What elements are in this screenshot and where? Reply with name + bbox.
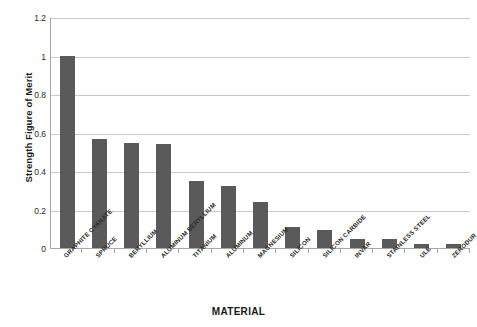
bar[interactable] bbox=[60, 56, 75, 249]
y-axis-tick-label: 1.2 bbox=[20, 14, 46, 23]
y-axis-tick-label: 0.8 bbox=[20, 91, 46, 100]
bar[interactable] bbox=[221, 186, 236, 248]
bar-slot bbox=[341, 18, 373, 248]
strength-figure-of-merit-bar-chart: Strength Figure of Merit 00.20.40.60.811… bbox=[0, 0, 477, 327]
bar[interactable] bbox=[124, 143, 139, 248]
bar-slot bbox=[277, 18, 309, 248]
bar-slot bbox=[51, 18, 83, 248]
bar-slot bbox=[148, 18, 180, 248]
y-axis-tick-label: 1 bbox=[20, 53, 46, 62]
bar-slot bbox=[115, 18, 147, 248]
plot-area bbox=[50, 18, 470, 249]
bar-slot bbox=[438, 18, 470, 248]
y-axis-tick-label: 0.4 bbox=[20, 168, 46, 177]
y-axis-tick-labels: 00.20.40.60.811.2 bbox=[16, 0, 46, 327]
y-axis-tick-label: 0.2 bbox=[20, 207, 46, 216]
y-axis-tick-label: 0.6 bbox=[20, 130, 46, 139]
bar-series bbox=[51, 18, 470, 248]
x-axis-category-labels: GRAPHITE CYANATESPRUCEBERYLLIUMALUMINUM … bbox=[50, 254, 470, 314]
bar[interactable] bbox=[253, 202, 268, 248]
bar[interactable] bbox=[156, 144, 171, 248]
bar-slot bbox=[406, 18, 438, 248]
bar-slot bbox=[212, 18, 244, 248]
bar-slot bbox=[244, 18, 276, 248]
x-axis-title: MATERIAL bbox=[0, 306, 477, 317]
bar-slot bbox=[309, 18, 341, 248]
bar-slot bbox=[373, 18, 405, 248]
y-axis-tick-label: 0 bbox=[20, 245, 46, 254]
